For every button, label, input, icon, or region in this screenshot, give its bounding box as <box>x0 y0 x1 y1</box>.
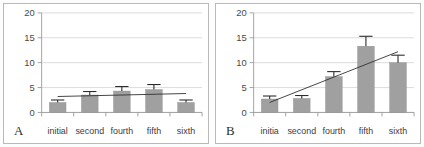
error-bar <box>179 100 192 102</box>
x-axis-category-label: initia <box>261 126 279 136</box>
x-axis-category-label: fourth <box>322 126 345 136</box>
y-axis-tick-label: 15 <box>24 33 34 43</box>
y-axis-tick-label: 10 <box>24 58 34 68</box>
bar <box>114 91 131 112</box>
y-axis-tick-label: 5 <box>29 83 34 93</box>
y-axis-tick-label: 0 <box>29 108 34 118</box>
y-axis-tick-label: 20 <box>236 8 246 18</box>
y-axis-tick-label: 20 <box>24 8 34 18</box>
error-bar <box>295 96 308 99</box>
bar <box>81 95 98 112</box>
error-bar <box>83 92 96 95</box>
error-bar <box>51 100 64 102</box>
chart-panel-a: 05101520initialsecondfourthfifthsixthA <box>3 3 209 144</box>
error-bar <box>391 55 404 62</box>
plot-area-a: 05101520initialsecondfourthfifthsixthA <box>4 4 208 143</box>
bar <box>49 102 66 112</box>
plot-area-b: 05101520initiasecondfourthfifthsixthB <box>216 4 420 143</box>
panel-letter: B <box>226 124 235 138</box>
error-bar <box>147 85 160 90</box>
x-axis-category-label: second <box>75 126 104 136</box>
bar <box>178 102 195 112</box>
x-axis-category-label: fourth <box>110 126 133 136</box>
panel-letter: A <box>14 124 24 138</box>
chart-panel-b: 05101520initiasecondfourthfifthsixthB <box>215 3 421 144</box>
error-bar <box>263 96 276 99</box>
x-axis-category-label: second <box>287 126 316 136</box>
bar-chart-b: 05101520initiasecondfourthfifthsixthB <box>216 4 420 143</box>
y-axis-tick-label: 0 <box>241 108 246 118</box>
x-axis-category-label: sixth <box>389 126 407 136</box>
error-bar <box>327 72 340 77</box>
y-axis-tick-label: 5 <box>241 83 246 93</box>
bar <box>261 99 278 112</box>
bar-chart-a: 05101520initialsecondfourthfifthsixthA <box>4 4 208 143</box>
x-axis-category-label: fifth <box>359 126 373 136</box>
bar <box>146 90 163 113</box>
x-axis-category-label: initial <box>48 126 68 136</box>
y-axis-tick-label: 15 <box>236 33 246 43</box>
y-axis-tick-label: 10 <box>236 58 246 68</box>
bar <box>326 77 343 113</box>
bar <box>358 46 375 112</box>
bar <box>390 63 407 113</box>
figure-container: 05101520initialsecondfourthfifthsixthA 0… <box>0 0 424 147</box>
x-axis-category-label: sixth <box>177 126 195 136</box>
bar <box>293 99 310 113</box>
x-axis-category-label: fifth <box>147 126 161 136</box>
